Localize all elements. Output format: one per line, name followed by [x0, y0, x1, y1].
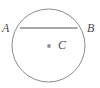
geometry-figure: A B C	[0, 0, 100, 88]
point-label-b: B	[87, 22, 94, 34]
point-label-a: A	[2, 22, 9, 34]
figure-canvas	[0, 0, 100, 88]
point-label-c: C	[58, 39, 66, 51]
center-point-c	[47, 44, 51, 48]
